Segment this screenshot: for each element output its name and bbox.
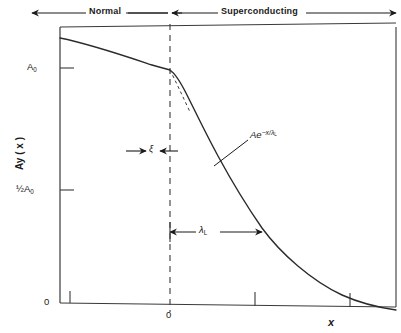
vector-potential-curve xyxy=(60,38,396,310)
annotation-exponential-decay: Ae−x/λL xyxy=(250,129,277,140)
annotation-lambda-sub: L xyxy=(204,229,208,236)
y-tick-half-a0-text: ½A xyxy=(16,183,30,194)
annotation-exp-power: −x/λL xyxy=(262,129,277,136)
axis-lines xyxy=(60,23,396,307)
tangent-dashed-segment xyxy=(170,70,190,112)
annotation-exp-base: Ae xyxy=(250,129,262,140)
annotation-penetration-depth: λL xyxy=(199,224,207,236)
y-axis-label: Ay ( x ) xyxy=(14,137,25,170)
region-label-normal: Normal xyxy=(89,6,121,16)
exponential-leader-line xyxy=(214,140,248,166)
annotation-exp-power-text: −x/λ xyxy=(262,129,275,136)
y-tick-label-half-a0: ½A0 xyxy=(16,183,34,195)
y-tick-half-a0-sub: 0 xyxy=(30,188,34,195)
region-label-superconducting: Superconducting xyxy=(221,6,298,16)
x-axis-label: x xyxy=(328,316,334,328)
annotation-coherence-length: ξ xyxy=(149,143,153,154)
y-tick-label-a0: A0 xyxy=(27,61,37,73)
annotation-exp-power-sub: L xyxy=(274,132,277,137)
y-tick-a0-sub: 0 xyxy=(33,66,37,73)
figure-vector-potential-superconductor: Normal Superconducting Ay ( x ) A0 ½A0 0… xyxy=(0,0,401,333)
y-tick-label-zero: 0 xyxy=(44,296,49,307)
figure-canvas xyxy=(0,0,401,333)
y-axis-ticks xyxy=(60,68,74,190)
x-tick-label-zero: 0 xyxy=(166,309,171,320)
